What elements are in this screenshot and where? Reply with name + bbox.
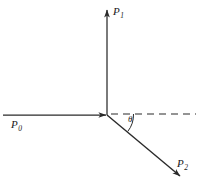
label-p2: P2 — [177, 158, 188, 169]
label-p1: P1 — [113, 6, 124, 17]
vector-diagram-canvas — [0, 0, 201, 185]
label-p0: P0 — [11, 119, 22, 130]
label-p0-sub: 0 — [18, 124, 22, 133]
label-p0-base: P — [11, 118, 18, 130]
label-p1-base: P — [113, 5, 120, 17]
vector-diagram: P1 P0 P2 θ — [0, 0, 201, 185]
vector-p2-line — [107, 115, 180, 176]
label-p1-sub: 1 — [120, 11, 124, 20]
label-theta: θ — [128, 115, 132, 124]
label-p2-base: P — [177, 157, 184, 169]
label-p2-sub: 2 — [184, 163, 188, 172]
